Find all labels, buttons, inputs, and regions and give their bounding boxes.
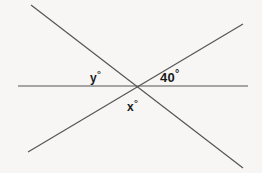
angle-label-x-text: x: [127, 100, 134, 114]
angle-label-x: x°: [127, 98, 138, 113]
angle-label-40: 40°: [160, 68, 179, 84]
degree-symbol-icon: °: [134, 97, 138, 108]
ascending-diagonal-line: [28, 24, 243, 152]
angle-label-y-text: y: [90, 71, 97, 85]
angle-label-y: y°: [90, 69, 101, 84]
geometry-diagram: y° 40° x°: [0, 0, 262, 173]
degree-symbol-icon: °: [97, 68, 101, 79]
lines-canvas: [0, 0, 262, 173]
angle-label-40-text: 40: [160, 70, 175, 85]
degree-symbol-icon: °: [175, 67, 179, 79]
